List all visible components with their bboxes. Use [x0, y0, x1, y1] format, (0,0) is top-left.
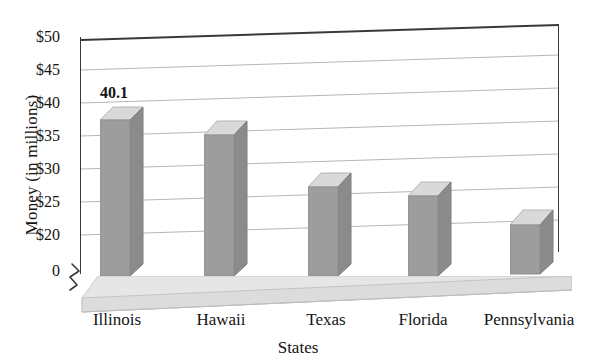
y-tick-label-20: $20 — [14, 228, 60, 242]
x-tick-label-pennsylvania: Pennsylvania — [462, 310, 596, 330]
y-tick-label-35: $35 — [14, 129, 60, 143]
y-tick-label-50: $50 — [14, 30, 60, 44]
bar-hawaii — [204, 24, 250, 276]
bar-texas — [308, 24, 354, 276]
x-axis-title: States — [0, 338, 596, 358]
y-tick-label-45: $45 — [14, 63, 60, 77]
bar-illinois: 40.1 — [100, 24, 146, 276]
bar-illinois-shape — [100, 24, 146, 276]
y-axis-tick-labels: $50 $45 $40 $35 $30 $25 $20 0 — [10, 0, 60, 364]
x-tick-label-illinois: Illinois — [72, 310, 162, 330]
y-tick-label-zero: 0 — [14, 264, 60, 278]
bar-pennsylvania-shape — [510, 24, 556, 276]
bar-florida — [408, 24, 454, 276]
chart-figure: Money (in millions) $50 $45 $40 $35 $30 … — [0, 0, 596, 364]
y-tick-label-40: $40 — [14, 96, 60, 110]
bar-florida-shape — [408, 24, 454, 276]
bar-pennsylvania — [510, 24, 556, 276]
bar-hawaii-shape — [204, 24, 250, 276]
y-tick-label-30: $30 — [14, 162, 60, 176]
plot-right-edge — [558, 24, 559, 252]
plot-area: 40.1 — [80, 24, 560, 274]
x-tick-label-florida: Florida — [378, 310, 468, 330]
bar-texas-shape — [308, 24, 354, 276]
x-tick-label-texas: Texas — [281, 310, 371, 330]
x-tick-label-hawaii: Hawaii — [176, 310, 266, 330]
bar-label-illinois: 40.1 — [100, 84, 128, 102]
y-tick-label-25: $25 — [14, 195, 60, 209]
y-axis-line — [80, 37, 81, 274]
